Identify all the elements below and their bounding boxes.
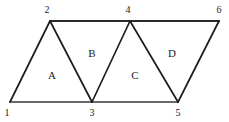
edge-2-3	[50, 21, 92, 102]
edge-4-5	[130, 21, 178, 102]
vertex-label-5: 5	[176, 108, 181, 118]
region-label-c: C	[131, 70, 138, 81]
edge-5-6	[178, 21, 219, 102]
triangle-strip-figure: 1 2 3 4 5 6 A B C D	[0, 0, 229, 122]
vertex-label-3: 3	[90, 108, 95, 118]
diagram-canvas	[0, 0, 229, 122]
region-label-b: B	[88, 48, 95, 59]
vertex-label-6: 6	[217, 5, 222, 15]
edge-3-4	[92, 21, 130, 102]
region-label-d: D	[168, 48, 176, 59]
vertex-label-2: 2	[45, 5, 50, 15]
vertex-label-4: 4	[126, 5, 131, 15]
vertex-label-1: 1	[5, 108, 10, 118]
region-label-a: A	[48, 70, 56, 81]
edge-group	[10, 21, 219, 102]
edge-1-2	[10, 21, 50, 102]
